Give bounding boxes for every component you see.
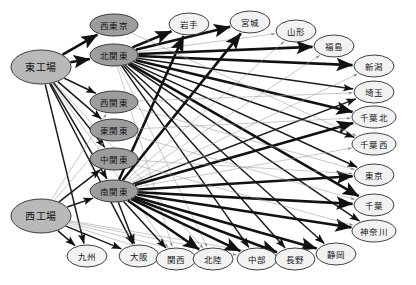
node-nagano[interactable]: 長野 <box>275 248 315 270</box>
node-label-nishikanto: 西関東 <box>100 98 128 108</box>
node-minamikanto[interactable]: 南関東 <box>90 180 138 202</box>
node-nishikanto[interactable]: 西関東 <box>90 91 138 113</box>
node-label-chibakita: 千葉北 <box>360 113 388 123</box>
node-kansai[interactable]: 関西 <box>156 248 196 270</box>
node-label-shizuoka: 静岡 <box>327 250 345 260</box>
node-label-kitakanto: 北関東 <box>100 51 128 61</box>
node-chibanishi[interactable]: 千葉西 <box>352 133 396 155</box>
node-east_factory[interactable]: 東工場 <box>11 50 71 84</box>
node-label-east_factory: 東工場 <box>25 61 57 73</box>
node-label-kanagawa: 神奈川 <box>360 227 388 237</box>
node-label-iwate: 岩手 <box>180 20 198 30</box>
node-label-tokyo: 東京 <box>365 171 383 181</box>
edge-nishikanto-to-tokyo <box>135 108 355 170</box>
node-label-nagano: 長野 <box>286 255 304 265</box>
node-miyagi[interactable]: 宮城 <box>230 11 270 33</box>
node-label-yamagata: 山形 <box>287 27 305 37</box>
node-label-nakakanto: 中関東 <box>100 155 128 165</box>
edge-higashikanto-to-chiba <box>135 136 355 199</box>
node-higashikanto[interactable]: 東関東 <box>90 119 138 141</box>
node-iwate[interactable]: 岩手 <box>169 13 209 35</box>
node-label-chubu: 中部 <box>248 255 266 265</box>
node-label-chiba: 千葉 <box>365 201 383 211</box>
node-label-osaka: 大阪 <box>130 252 148 262</box>
node-fukushima[interactable]: 福島 <box>314 35 354 57</box>
node-label-west_factory: 西工場 <box>25 210 57 222</box>
node-west_factory[interactable]: 西工場 <box>11 199 71 233</box>
node-saitama[interactable]: 埼玉 <box>354 81 394 103</box>
node-label-chibanishi: 千葉西 <box>360 140 388 150</box>
node-chibakita[interactable]: 千葉北 <box>352 106 396 128</box>
node-label-higashikanto: 東関東 <box>100 126 128 136</box>
node-nishitokyo[interactable]: 西東京 <box>90 14 138 36</box>
node-osaka[interactable]: 大阪 <box>119 245 159 267</box>
node-label-kyushu: 九州 <box>78 252 96 262</box>
node-label-fukushima: 福島 <box>325 42 343 52</box>
edge-minamikanto-to-tokyo <box>138 176 352 189</box>
supply-chain-network-diagram: 東工場西工場西東京北関東西関東東関東中関東南関東岩手宮城山形福島新潟埼玉千葉北千… <box>0 0 416 285</box>
node-chiba[interactable]: 千葉 <box>354 194 394 216</box>
node-yamagata[interactable]: 山形 <box>276 20 316 42</box>
node-label-minamikanto: 南関東 <box>100 187 128 197</box>
edge-east_factory-to-kitakanto <box>70 59 90 62</box>
edge-west_factory-to-kyushu <box>58 231 75 246</box>
node-label-miyagi: 宮城 <box>241 18 259 28</box>
node-nakakanto[interactable]: 中関東 <box>90 148 138 170</box>
node-kyushu[interactable]: 九州 <box>67 245 107 267</box>
node-label-niigata: 新潟 <box>365 62 383 72</box>
node-kitakanto[interactable]: 北関東 <box>90 44 138 66</box>
node-tokyo[interactable]: 東京 <box>354 164 394 186</box>
node-label-nishitokyo: 西東京 <box>100 21 128 31</box>
node-hokuriku[interactable]: 北陸 <box>193 248 233 270</box>
node-kanagawa[interactable]: 神奈川 <box>352 220 396 242</box>
node-chubu[interactable]: 中部 <box>237 248 277 270</box>
node-niigata[interactable]: 新潟 <box>354 55 394 77</box>
node-label-hokuriku: 北陸 <box>204 255 222 265</box>
node-label-kansai: 関西 <box>167 255 185 265</box>
edge-kitakanto-to-shizuoka <box>125 65 324 243</box>
node-shizuoka[interactable]: 静岡 <box>316 243 356 265</box>
edge-west_factory-to-minamikanto <box>67 198 93 207</box>
node-label-saitama: 埼玉 <box>365 88 383 98</box>
edge-layer <box>45 27 359 256</box>
